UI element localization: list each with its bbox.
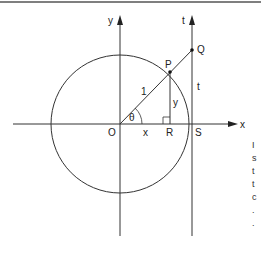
y-axis-label: y: [108, 15, 113, 26]
origin-label: O: [108, 127, 116, 138]
point-R-label: R: [166, 127, 173, 138]
side-text-fragment: c: [252, 192, 257, 203]
x-axis-label: x: [240, 119, 245, 130]
side-text-fragment: s: [252, 153, 257, 164]
angle-arc: [135, 108, 142, 124]
point-Q-label: Q: [197, 44, 205, 55]
side-text-fragment: t: [252, 166, 255, 177]
t-axis-label: t: [182, 15, 185, 26]
segment-SQ-label: t: [197, 81, 200, 92]
point-P: [168, 70, 172, 74]
side-text-fragment: t: [252, 179, 255, 190]
segment-PR-label: y: [173, 97, 178, 108]
segment-OR-label: x: [143, 127, 148, 138]
right-angle-marker: [163, 117, 170, 124]
angle-label: θ: [129, 112, 135, 123]
side-text-fragment: .: [252, 205, 255, 216]
radius-label: 1: [141, 86, 147, 97]
x-axis-arrow-icon: [228, 121, 238, 127]
y-axis-arrow-icon: [117, 15, 123, 25]
point-P-label: P: [165, 59, 172, 70]
side-text-fragment: I: [252, 140, 255, 151]
t-axis-arrow-icon: [189, 15, 195, 25]
unit-circle-diagram: y t x Q P 1 y t θ O x R S: [0, 0, 261, 254]
point-Q: [190, 48, 194, 52]
point-S-label: S: [195, 127, 202, 138]
side-text-fragment: .: [252, 218, 255, 229]
